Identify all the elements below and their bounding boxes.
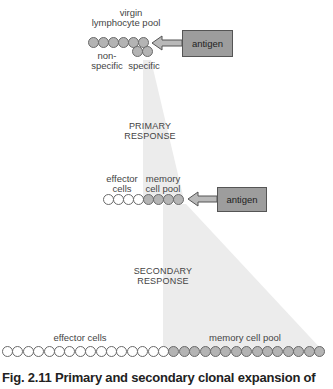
figure-caption: Fig. 2.11 Primary and secondary clonal e…	[2, 370, 315, 385]
effector-cell	[23, 346, 34, 357]
primary-response-line2: RESPONSE	[115, 131, 185, 141]
effector-cell	[75, 346, 86, 357]
antigen-box-middle: antigen	[217, 187, 267, 212]
secondary-response-line2: RESPONSE	[128, 276, 198, 286]
effector-cell	[44, 346, 55, 357]
memory-cell	[262, 346, 273, 357]
nonspecific-label-line2: specific	[87, 61, 127, 71]
memory-cell	[314, 346, 325, 357]
effector-cell	[127, 346, 138, 357]
effector-cell	[54, 346, 65, 357]
antigen-arrow-top	[152, 36, 182, 50]
memory-cell-pool-label: memory cell pool	[205, 333, 285, 343]
memory-cell	[179, 346, 190, 357]
virgin-pool-label-line2: lymphocyte pool	[86, 18, 166, 28]
effector-cell	[106, 346, 117, 357]
effector-cell	[158, 346, 169, 357]
effector-cell	[148, 346, 159, 357]
memory-cell	[283, 346, 294, 357]
memory-cell	[252, 346, 263, 357]
memory-cell	[304, 346, 315, 357]
memory-cell	[231, 346, 242, 357]
memory-cell	[173, 194, 184, 205]
specific-label: specific	[126, 61, 162, 71]
specific-cell	[142, 46, 153, 57]
antigen-arrow-middle	[188, 192, 217, 206]
effector-cell	[2, 346, 13, 357]
primary-response-line1: PRIMARY	[120, 121, 180, 131]
effector-label-line2: cells	[108, 184, 136, 194]
effector-cell	[96, 346, 107, 357]
memory-cell	[210, 346, 221, 357]
memory-cell	[200, 346, 211, 357]
memory-label-line2: cell pool	[141, 184, 185, 194]
effector-cells-label: effector cells	[50, 333, 110, 343]
secondary-response-line1: SECONDARY	[128, 266, 198, 276]
antigen-box-top: antigen	[182, 30, 233, 57]
